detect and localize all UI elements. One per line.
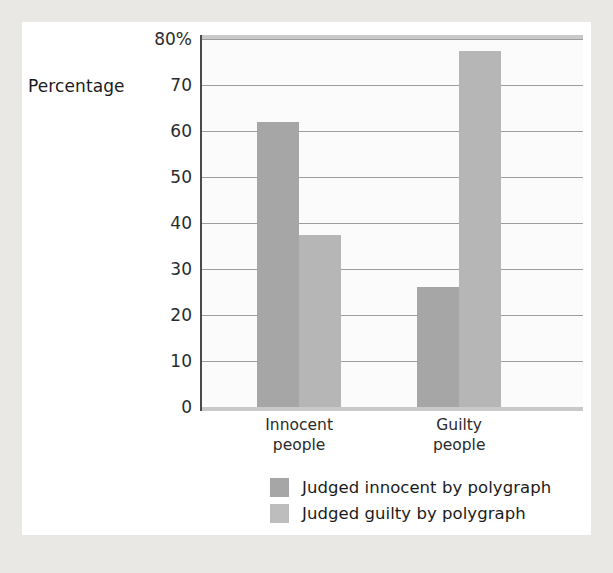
bar-chart-figure: Percentage 80%706050403020100 Innocent p… <box>22 22 591 535</box>
x-axis-tick-labels: Innocent peopleGuilty people <box>200 416 583 466</box>
y-tick-label: 50 <box>170 169 192 186</box>
legend-swatch <box>270 504 289 523</box>
x-tick-label: Innocent people <box>229 416 369 456</box>
bar <box>299 235 341 408</box>
plot-area <box>200 35 583 411</box>
plot-canvas <box>202 39 583 407</box>
y-tick-label: 40 <box>170 215 192 232</box>
y-axis-line <box>200 35 202 411</box>
y-tick-label: 10 <box>170 353 192 370</box>
legend-item: Judged guilty by polygraph <box>270 500 613 526</box>
bar <box>417 287 459 407</box>
x-tick-label: Guilty people <box>389 416 529 456</box>
y-tick-label: 0 <box>181 399 192 416</box>
y-tick-label: 70 <box>170 77 192 94</box>
legend-swatch <box>270 478 289 497</box>
legend-label: Judged innocent by polygraph <box>302 478 551 497</box>
bar <box>459 51 501 408</box>
bar <box>257 122 299 407</box>
chart-legend: Judged innocent by polygraphJudged guilt… <box>200 474 613 526</box>
y-tick-label: 20 <box>170 307 192 324</box>
y-tick-label: 80% <box>154 31 192 48</box>
y-axis-caption: Percentage <box>28 76 125 96</box>
legend-label: Judged guilty by polygraph <box>302 504 526 523</box>
chart-card: Percentage 80%706050403020100 Innocent p… <box>22 22 591 535</box>
gridline <box>202 39 583 40</box>
y-tick-label: 60 <box>170 123 192 140</box>
y-tick-label: 30 <box>170 261 192 278</box>
y-axis-tick-labels: 80%706050403020100 <box>130 35 192 411</box>
gridline <box>202 85 583 86</box>
legend-item: Judged innocent by polygraph <box>270 474 613 500</box>
plot-baseline-band <box>200 407 583 411</box>
